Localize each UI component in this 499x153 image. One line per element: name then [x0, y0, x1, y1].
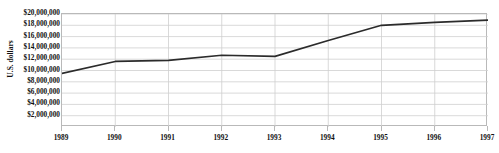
chart-title: [62, 0, 322, 3]
y-tick-label: $12,000,000: [4, 54, 60, 62]
x-axis-tick-labels: 198919901991199219931994199519961997: [0, 133, 493, 147]
y-tick-label: $14,000,000: [4, 43, 60, 51]
x-tick-mark: [381, 126, 382, 131]
x-tick-label: 1996: [411, 133, 457, 143]
x-tick-mark: [434, 126, 435, 131]
x-tick-mark: [61, 126, 62, 131]
x-tick-mark: [487, 126, 488, 131]
x-tick-mark: [114, 126, 115, 131]
y-tick-label: $10,000,000: [4, 66, 60, 74]
y-tick-label: $18,000,000: [4, 20, 60, 28]
y-tick-label: $4,000,000: [4, 99, 60, 107]
x-tick-label: 1992: [198, 133, 244, 143]
y-axis-tick-labels: $2,000,000$4,000,000$6,000,000$8,000,000…: [4, 0, 60, 153]
x-tick-label: 1990: [91, 133, 137, 143]
x-tick-mark: [168, 126, 169, 131]
y-tick-label: $16,000,000: [4, 32, 60, 40]
x-tick-label: 1995: [358, 133, 404, 143]
y-tick-label: $20,000,000: [4, 9, 60, 17]
x-tick-label: 1993: [251, 133, 297, 143]
plot-area: [61, 13, 487, 126]
x-tick-mark: [221, 126, 222, 131]
x-tick-mark: [274, 126, 275, 131]
y-tick-label: $8,000,000: [4, 77, 60, 85]
x-tick-mark: [327, 126, 328, 131]
y-tick-label: $2,000,000: [4, 111, 60, 119]
x-tick-label: 1994: [304, 133, 350, 143]
x-tick-label: 1989: [38, 133, 84, 143]
x-tick-label: 1991: [145, 133, 191, 143]
plot-svg: [62, 14, 488, 127]
y-tick-label: $6,000,000: [4, 88, 60, 96]
x-tick-label: 1997: [464, 133, 499, 143]
